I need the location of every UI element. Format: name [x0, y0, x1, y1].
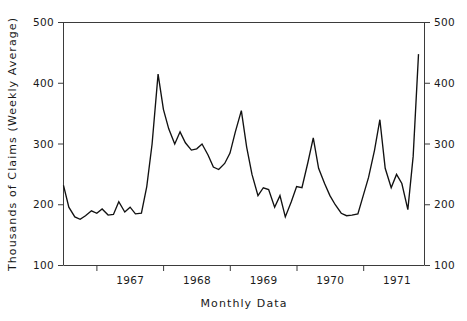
y-label-left-300: 300: [33, 138, 54, 150]
claims-line-chart: 500 400 300 200 100 500 400 300 200 100: [0, 0, 467, 321]
chart-background: [0, 0, 467, 321]
x-label-1967: 1967: [116, 274, 144, 286]
chart-figure: 500 400 300 200 100 500 400 300 200 100: [0, 0, 467, 321]
y-label-left-500: 500: [33, 16, 54, 28]
y-label-right-200: 200: [434, 198, 455, 210]
y-axis-title: Thousands of Claims (Weekly Average): [6, 17, 19, 272]
y-label-left-100: 100: [33, 259, 54, 271]
x-label-1968: 1968: [183, 274, 211, 286]
y-label-left-200: 200: [33, 198, 54, 210]
x-label-1969: 1969: [250, 274, 278, 286]
x-label-1970: 1970: [316, 274, 344, 286]
y-label-left-400: 400: [33, 77, 54, 89]
x-axis-title: Monthly Data: [200, 297, 287, 310]
y-label-right-500: 500: [434, 16, 455, 28]
x-label-1971: 1971: [383, 274, 411, 286]
y-label-right-400: 400: [434, 77, 455, 89]
y-label-right-100: 100: [434, 259, 455, 271]
y-label-right-300: 300: [434, 138, 455, 150]
